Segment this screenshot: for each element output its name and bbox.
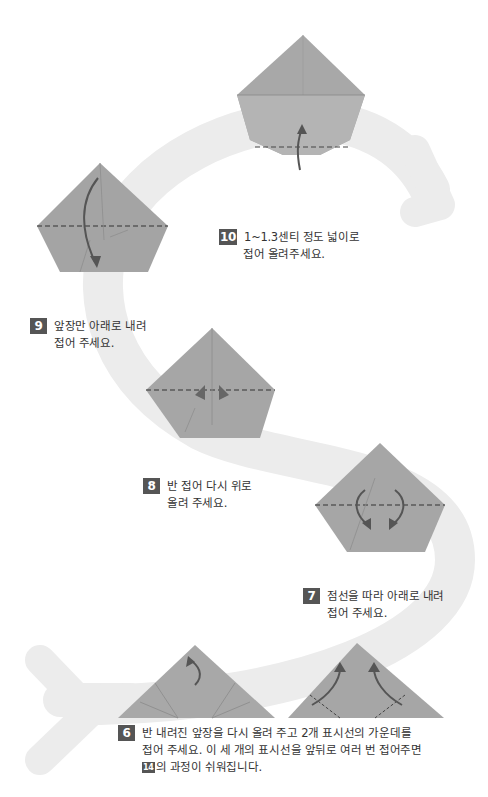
origami-illustration — [0, 0, 488, 797]
diagram-step-10 — [237, 35, 365, 170]
step-10-text: 101~1.3센티 정도 넓이로 접어 올려주세요. — [219, 229, 359, 263]
step-9-text: 9앞장만 아래로 내려 접어 주세요. — [30, 318, 146, 352]
step-7-text: 7점선을 따라 아래로 내려 접어 주세요. — [303, 588, 444, 622]
step-number-badge: 7 — [303, 588, 320, 604]
step-8-text: 8반 접어 다시 위로 올려 주세요. — [143, 478, 252, 512]
step-number-badge: 8 — [143, 478, 160, 494]
step-6-text: 6반 내려진 앞장을 다시 올려 주고 2개 표시선의 가운데를 접어 주세요.… — [118, 725, 422, 776]
step-reference-badge: 14 — [142, 762, 155, 773]
step-number-badge: 9 — [30, 318, 47, 334]
step-number-badge: 6 — [118, 725, 135, 741]
step-number-badge: 10 — [219, 229, 237, 245]
